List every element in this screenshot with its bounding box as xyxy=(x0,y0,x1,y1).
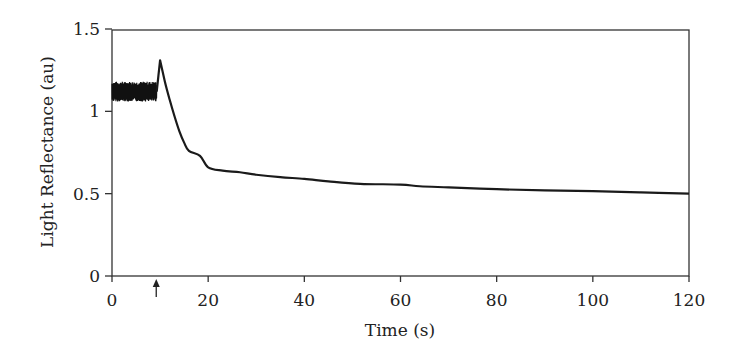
y-tick-label: 0.5 xyxy=(73,184,100,204)
data-series xyxy=(112,60,689,193)
x-tick-label: 60 xyxy=(390,290,412,310)
y-axis-ticks: 00.511.5 xyxy=(73,19,112,286)
x-tick-label: 80 xyxy=(486,290,508,310)
x-tick-label: 120 xyxy=(673,290,705,310)
x-tick-label: 20 xyxy=(197,290,219,310)
x-axis-ticks: 020406080100120 xyxy=(107,276,706,310)
plot-border xyxy=(112,30,689,276)
x-tick-label: 0 xyxy=(107,290,118,310)
reflectance-curve xyxy=(157,60,689,193)
y-tick-label: 1 xyxy=(89,101,100,121)
annotations xyxy=(153,279,160,297)
plot-frame xyxy=(112,30,689,276)
x-tick-label: 40 xyxy=(294,290,316,310)
arrow-up-icon xyxy=(153,279,160,287)
x-axis-label: Time (s) xyxy=(365,320,435,340)
chart: 00.511.5 020406080100120 Time (s) Light … xyxy=(0,0,740,359)
y-axis-label: Light Reflectance (au) xyxy=(37,56,57,248)
x-tick-label: 100 xyxy=(577,290,609,310)
y-tick-label: 0 xyxy=(89,266,100,286)
noisy-baseline-trace xyxy=(112,82,157,102)
y-tick-label: 1.5 xyxy=(73,19,100,39)
